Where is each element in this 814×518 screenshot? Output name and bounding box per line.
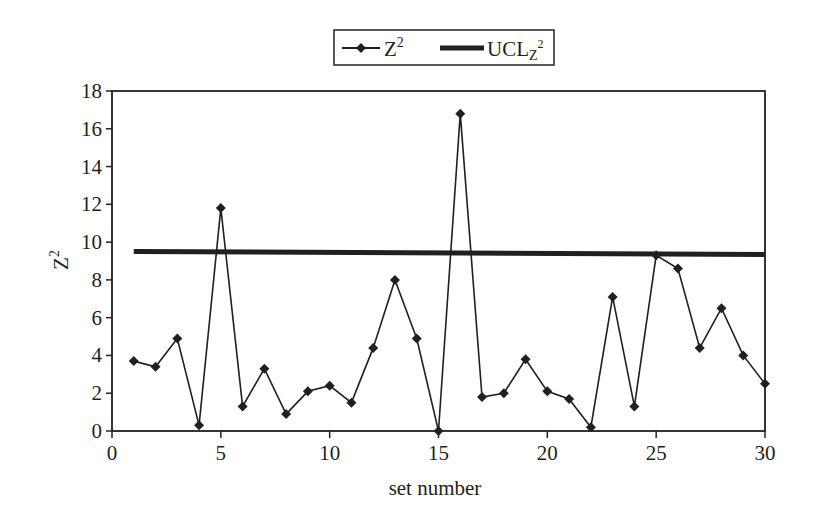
y-tick-label: 16 (81, 117, 102, 141)
y-tick-label: 12 (81, 192, 102, 216)
diamond-marker-icon (238, 401, 248, 411)
z2-series-line (134, 114, 765, 431)
x-axis-title: set number (389, 476, 482, 500)
x-tick-label: 10 (319, 441, 340, 465)
y-tick-label: 18 (81, 79, 102, 103)
y-tick-label: 4 (92, 343, 103, 367)
diamond-marker-icon (673, 264, 683, 274)
ucl-line (134, 252, 765, 255)
diamond-marker-icon (521, 354, 531, 364)
diamond-marker-icon (259, 364, 269, 374)
y-tick-label: 0 (92, 419, 103, 443)
y-tick-label: 10 (81, 230, 102, 254)
x-tick-label: 15 (428, 441, 449, 465)
y-tick-label: 2 (92, 381, 103, 405)
diamond-marker-icon (477, 392, 487, 402)
x-tick-label: 30 (755, 441, 776, 465)
diamond-marker-icon (542, 386, 552, 396)
diamond-marker-icon (629, 401, 639, 411)
diamond-marker-icon (695, 343, 705, 353)
x-axis: 051015202530 (107, 431, 776, 465)
diamond-marker-icon (216, 203, 226, 213)
x-tick-label: 25 (646, 441, 667, 465)
diamond-marker-icon (129, 356, 139, 366)
diamond-marker-icon (434, 426, 444, 436)
diamond-marker-icon (390, 275, 400, 285)
diamond-marker-icon (499, 388, 509, 398)
y-tick-label: 14 (81, 155, 103, 179)
diamond-marker-icon (194, 420, 204, 430)
diamond-marker-icon (455, 109, 465, 119)
x-tick-label: 20 (537, 441, 558, 465)
control-chart: Z2 UCLZ2 024681012141618 051015202530 se… (0, 0, 814, 518)
x-tick-label: 5 (216, 441, 227, 465)
legend: Z2 UCLZ2 (334, 30, 554, 65)
y-tick-label: 8 (92, 268, 103, 292)
diamond-marker-icon (412, 333, 422, 343)
x-tick-label: 0 (107, 441, 118, 465)
diamond-marker-icon (608, 292, 618, 302)
diamond-marker-icon (716, 303, 726, 313)
y-axis-title: Z2 (47, 250, 73, 270)
diamond-marker-icon (368, 343, 378, 353)
y-axis: 024681012141618 (81, 79, 112, 443)
y-tick-label: 6 (92, 306, 103, 330)
plot-area (112, 91, 765, 431)
